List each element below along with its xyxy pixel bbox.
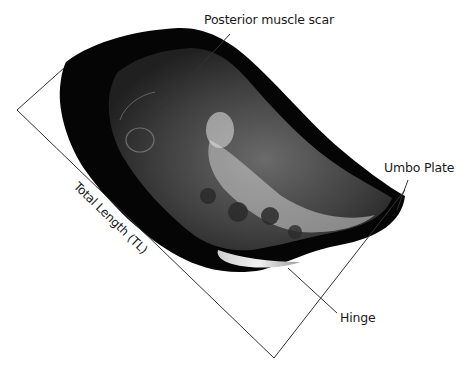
hinge-leader (288, 268, 337, 313)
mussel-shell-diagram: Posterior muscle scar Umbo Plate Hinge T… (0, 0, 467, 378)
hinge-label: Hinge (340, 312, 375, 325)
posterior-muscle-scar-label: Posterior muscle scar (204, 14, 334, 27)
umbo-plate-label: Umbo Plate (384, 162, 454, 175)
